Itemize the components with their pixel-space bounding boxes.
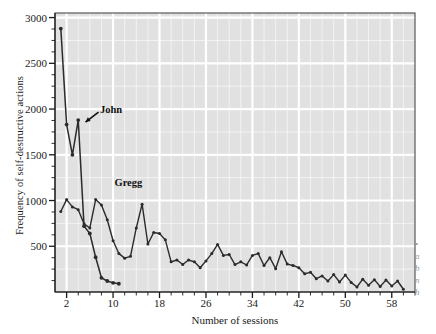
data-point: [234, 263, 237, 266]
data-point: [152, 231, 155, 234]
edge-caption-line-4: n: [415, 274, 435, 286]
data-point: [268, 256, 271, 259]
data-point: [204, 259, 207, 262]
plot-background: [55, 13, 415, 292]
annotation-john: John: [100, 104, 122, 115]
data-point: [117, 282, 121, 286]
data-point: [117, 252, 120, 255]
data-point: [71, 205, 74, 208]
data-point: [216, 243, 219, 246]
x-tick-26: 26: [191, 297, 221, 309]
data-point: [100, 276, 104, 280]
data-point: [83, 222, 86, 225]
page-edge-caption-fragment: • a b n h: [415, 238, 435, 298]
data-point: [257, 252, 260, 255]
data-point: [94, 198, 97, 201]
data-point: [187, 258, 190, 261]
x-tick-10: 10: [98, 297, 128, 309]
data-point: [315, 277, 318, 280]
data-point: [239, 260, 242, 263]
data-point: [350, 281, 353, 284]
edge-caption-line-1: •: [415, 238, 435, 250]
data-point: [181, 263, 184, 266]
data-point: [65, 198, 68, 201]
data-point: [88, 226, 91, 229]
annotation-gregg: Gregg: [114, 177, 142, 188]
edge-caption-line-5: h: [415, 286, 435, 298]
data-point: [384, 279, 387, 282]
data-point: [402, 288, 405, 291]
data-point: [332, 273, 335, 276]
data-point: [222, 254, 225, 257]
x-tick-18: 18: [145, 297, 175, 309]
data-point: [199, 266, 202, 269]
data-point: [338, 280, 341, 283]
data-point: [309, 271, 312, 274]
edge-caption-line-2: a: [415, 250, 435, 262]
data-point: [141, 203, 144, 206]
data-point: [129, 255, 132, 258]
data-point: [210, 252, 213, 255]
y-tick-1000: 1000: [5, 195, 47, 207]
data-point: [361, 278, 364, 281]
data-point: [245, 264, 248, 267]
data-point: [251, 254, 254, 257]
data-point: [373, 278, 376, 281]
x-tick-42: 42: [284, 297, 314, 309]
x-tick-2: 2: [52, 297, 82, 309]
data-point: [111, 281, 115, 285]
data-point: [105, 279, 109, 283]
y-tick-500: 500: [5, 240, 47, 252]
data-point: [77, 208, 80, 211]
data-point: [164, 238, 167, 241]
data-point: [158, 232, 161, 235]
data-point: [106, 218, 109, 221]
chart-plot-area: [0, 0, 436, 334]
data-point: [263, 264, 266, 267]
y-tick-3000: 3000: [5, 12, 47, 24]
data-point: [59, 210, 62, 213]
y-tick-1500: 1500: [5, 149, 47, 161]
data-point: [146, 242, 149, 245]
y-tick-2000: 2000: [5, 103, 47, 115]
data-point: [297, 266, 300, 269]
x-axis-title: Number of sessions: [55, 314, 415, 326]
data-point: [59, 27, 63, 31]
data-point: [396, 280, 399, 283]
data-point: [135, 226, 138, 229]
data-point: [65, 123, 69, 127]
data-point: [175, 258, 178, 261]
data-point: [94, 255, 98, 259]
data-point: [123, 257, 126, 260]
data-point: [390, 285, 393, 288]
x-tick-34: 34: [237, 297, 267, 309]
data-point: [303, 272, 306, 275]
data-point: [76, 118, 80, 122]
data-point: [100, 204, 103, 207]
x-tick-50: 50: [330, 297, 360, 309]
data-point: [88, 232, 92, 236]
y-tick-2500: 2500: [5, 57, 47, 69]
x-tick-58: 58: [377, 297, 407, 309]
data-point: [326, 280, 329, 283]
data-point: [286, 263, 289, 266]
data-point: [367, 284, 370, 287]
data-point: [280, 250, 283, 253]
data-point: [274, 267, 277, 270]
chart-figure: Frequency of self-destructive actions Nu…: [0, 0, 436, 334]
edge-caption-line-3: b: [415, 262, 435, 274]
data-point: [379, 285, 382, 288]
data-point: [292, 264, 295, 267]
data-point: [228, 253, 231, 256]
data-point: [112, 239, 115, 242]
data-point: [344, 274, 347, 277]
data-point: [193, 260, 196, 263]
data-point: [355, 285, 358, 288]
data-point: [71, 153, 75, 157]
data-point: [321, 274, 324, 277]
data-point: [170, 260, 173, 263]
